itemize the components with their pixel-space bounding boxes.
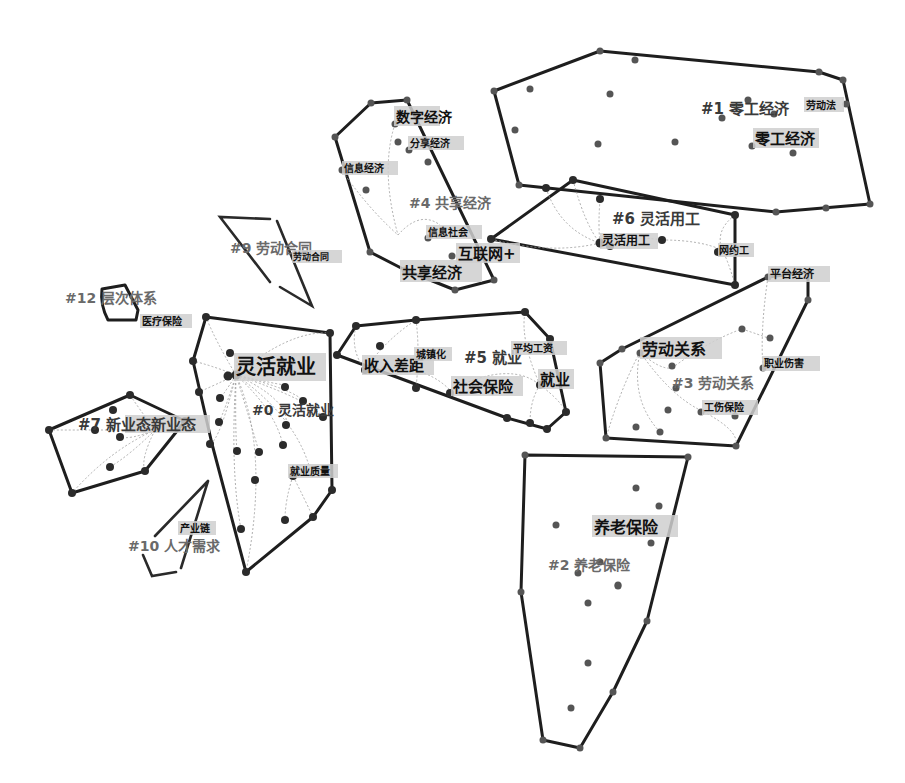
cluster-6-nodes <box>487 176 739 289</box>
cluster-3-label: #3 劳动关系 <box>672 375 754 391</box>
keyword-chengzhenhua[interactable]: 城镇化 <box>416 348 446 360</box>
cluster-10-label: #10 人才需求 <box>128 538 221 554</box>
keyword-linghuojiuye[interactable]: 灵活就业 <box>236 355 316 379</box>
keyword-wangyuegong[interactable]: 网约工 <box>719 244 749 256</box>
cluster-9[interactable]: #9 劳动合同 劳动合同 <box>220 217 342 306</box>
cluster-12-label: #12 层次体系 <box>65 290 157 306</box>
cluster-0[interactable]: 灵活就业 #0 灵活就业 就业质量 <box>189 313 338 576</box>
keyword-laodongfa[interactable]: 劳动法 <box>806 99 836 111</box>
keyword-jiuye[interactable]: 就业 <box>540 371 570 389</box>
cluster-7-label: #7 新业态新业态 <box>78 416 196 434</box>
keyword-yiliaobaoxian[interactable]: 医疗保险 <box>142 315 183 327</box>
cluster-0-label: #0 灵活就业 <box>252 402 334 418</box>
keyword-gongshangbaoxian[interactable]: 工伤保险 <box>704 401 745 413</box>
keyword-shuzijingji[interactable]: 数字经济 <box>396 109 453 125</box>
keyword-hulianwang[interactable]: 互联网+ <box>458 245 516 263</box>
keyword-xinxijingji[interactable]: 信息经济 <box>344 162 385 174</box>
cluster-7-hull <box>49 395 185 493</box>
cluster-4-label: #4 共享经济 <box>409 195 492 211</box>
keyword-laodonghetong[interactable]: 劳动合同 <box>293 251 329 262</box>
cluster-10[interactable]: 产业链 #10 人才需求 <box>128 481 221 576</box>
keyword-laodongguanxi[interactable]: 劳动关系 <box>642 340 706 359</box>
keyword-xinxishehui[interactable]: 信息社会 <box>428 226 468 238</box>
cluster-map: #1 零工经济 劳动法 零工经济 数字经济 分享经济 信息经济 #4 共享经济 <box>0 0 905 783</box>
cluster-12[interactable]: #12 层次体系 医疗保险 <box>65 285 192 328</box>
cluster-1-label: #1 零工经济 <box>701 100 790 118</box>
keyword-pingtaijingji[interactable]: 平台经济 <box>770 267 815 281</box>
cluster-5[interactable]: 收入差距 城镇化 #5 就业 平均工资 社会保险 就业 <box>333 308 574 433</box>
keyword-yanglaobaoxian[interactable]: 养老保险 <box>593 518 659 537</box>
keyword-pingjungongzi[interactable]: 平均工资 <box>513 342 553 354</box>
cluster-2[interactable]: 养老保险 #2 养老保险 <box>518 452 692 752</box>
cluster-7[interactable]: #7 新业态新业态 <box>45 391 210 497</box>
keyword-shehuibaoxian[interactable]: 社会保险 <box>452 378 514 396</box>
keyword-jiuyezhiliang[interactable]: 就业质量 <box>290 465 330 477</box>
keyword-linghuoyonggong[interactable]: 灵活用工 <box>602 233 650 248</box>
keyword-zhiyeshanghai[interactable]: 职业伤害 <box>764 357 804 369</box>
keyword-chanyelian[interactable]: 产业链 <box>180 522 211 534</box>
keyword-gongxiangjingji[interactable]: 共享经济 <box>402 264 463 282</box>
keyword-linggongjingji[interactable]: 零工经济 <box>754 130 816 148</box>
cluster-2-hull <box>521 455 688 748</box>
cluster-2-label: #2 养老保险 <box>548 557 631 573</box>
cluster-4[interactable]: 数字经济 分享经济 信息经济 #4 共享经济 信息社会 共享经济 <box>332 97 498 294</box>
cluster-0-nodes <box>189 313 336 576</box>
keyword-fenxiangjingji[interactable]: 分享经济 <box>410 137 451 149</box>
cluster-3[interactable]: 平台经济 劳动关系 职业伤害 #3 劳动关系 工伤保险 <box>597 266 831 450</box>
cluster-6-label: #6 灵活用工 <box>612 210 700 228</box>
